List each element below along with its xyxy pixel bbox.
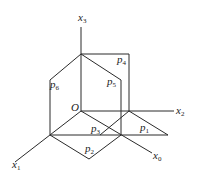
diagram-svg: x3 x2 x1 x0 O p1 p2 p3 p4 p5 p6 <box>0 0 199 181</box>
axis-x1 <box>15 111 81 162</box>
label-x3: x3 <box>77 11 87 25</box>
label-p6: p6 <box>49 78 60 92</box>
label-p2: p2 <box>84 142 95 156</box>
label-p5: p5 <box>106 75 117 89</box>
diagram-canvas: x3 x2 x1 x0 O p1 p2 p3 p4 p5 p6 <box>0 0 199 181</box>
label-p4: p4 <box>116 53 127 67</box>
label-x1: x1 <box>11 158 21 172</box>
plane-p3-diagonal <box>100 111 129 135</box>
label-x0: x0 <box>152 149 162 163</box>
label-origin: O <box>71 101 79 113</box>
label-p3: p3 <box>90 122 101 136</box>
label-x2: x2 <box>175 104 185 118</box>
